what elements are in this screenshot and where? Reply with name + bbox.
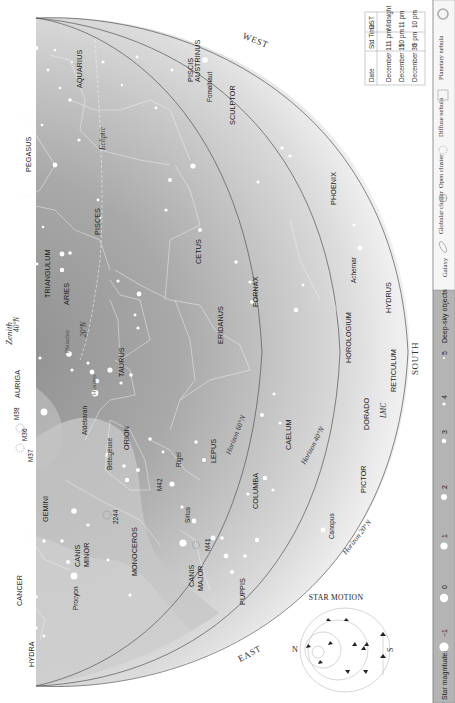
- legend-bar: Star magnitudes −1 0 1 2 3 4 5 Deep-sky …: [433, 0, 455, 703]
- label-hydrus: HYDRUS: [384, 282, 393, 313]
- label-orion: ORION: [122, 426, 131, 450]
- label-ngc2244: 2244: [112, 509, 119, 524]
- label-m42: M42: [156, 478, 163, 491]
- label-canis-minor-2: MINOR: [82, 543, 91, 567]
- label-ecliptic: Ecliptic: [98, 126, 107, 151]
- label-cetus: CETUS: [194, 239, 203, 264]
- direction-west: WEST: [241, 31, 270, 50]
- label-dorado: DORADO: [362, 398, 371, 430]
- label-taurus: TAURUS: [117, 347, 126, 377]
- label-pleiades: Pleiades: [64, 330, 70, 353]
- label-lmc: LMC: [379, 403, 388, 419]
- magnitude-dot: [443, 357, 445, 359]
- label-m36: M36: [21, 428, 28, 441]
- label-eridanus: ERIDANUS: [216, 306, 225, 344]
- magnitude-dot: [440, 594, 448, 602]
- label-triangulum: TRIANGULUM: [43, 249, 52, 298]
- label-hydra: HYDRA: [27, 641, 36, 667]
- label-zenith-20n: 20°N: [79, 321, 88, 337]
- label-pictor: PICTOR: [359, 465, 368, 493]
- globular-cluster-icon: [439, 194, 447, 202]
- table-header-dst: DST: [368, 16, 375, 29]
- magnitude-label: 2: [441, 485, 448, 489]
- label-gemini: GEMINI: [41, 496, 50, 522]
- legend-planetary-nebula-label: Planetary nebula: [437, 36, 444, 80]
- label-m38: M38: [13, 407, 20, 420]
- label-horologium: HOROLOGIUM: [344, 312, 353, 363]
- magnitude-label: 4: [441, 395, 448, 399]
- label-sculptor: SCULPTOR: [228, 85, 237, 125]
- label-columba: COLUMBA: [251, 473, 260, 509]
- label-aldebaran: Aldebaran: [81, 405, 88, 435]
- magnitude-dot: [441, 494, 447, 500]
- table-cell: 9 pm: [411, 32, 419, 46]
- label-m41: M41: [204, 538, 211, 551]
- magnitude-label: 1: [441, 534, 448, 538]
- label-procyon: Procyon: [72, 586, 80, 610]
- magnitude-label: 5: [441, 351, 448, 355]
- label-canis-major-2: MAJOR: [196, 565, 205, 591]
- label-monoceros: MONOCEROS: [130, 527, 139, 576]
- magnitude-dot: [439, 642, 448, 651]
- table-header-date: Date: [368, 68, 375, 82]
- table-cell: 11 pm: [385, 30, 393, 47]
- label-auriga: AURIGA: [13, 370, 22, 398]
- magnitude-dot: [440, 542, 447, 549]
- table-cell: December 1: [385, 47, 392, 82]
- label-austrinus: AUSTRINUS: [193, 39, 202, 82]
- table-cell: Midnight: [385, 6, 393, 30]
- table-cell: December 15: [398, 43, 405, 82]
- label-cancer: CANCER: [15, 575, 24, 606]
- label-pisces: PISCES: [93, 208, 102, 235]
- table-cell: 10 pm: [411, 10, 419, 28]
- direction-south: SOUTH: [410, 342, 420, 375]
- legend-deep-sky-label: Deep-sky objects: [441, 289, 449, 343]
- table-cell: 10 pm: [398, 29, 406, 47]
- label-reticulum: RETICULUM: [389, 349, 398, 392]
- label-betelgeuse: Betelgeuse: [106, 438, 114, 470]
- label-aries: ARIES: [62, 283, 71, 305]
- label-caelum: CAELUM: [284, 419, 293, 450]
- label-fornax: FORNAX: [251, 276, 260, 307]
- label-fomalhaut: Fomalhaut: [206, 72, 213, 102]
- time-table: Date Std Time DST December 1 11 pm Midni…: [365, 6, 425, 85]
- star-chart: AQUARIUS PISCIS AUSTRINUS SCULPTOR PEGAS…: [0, 0, 455, 703]
- star-motion-title: STAR MOTION: [309, 593, 364, 602]
- legend-galaxy-label: Galaxy: [441, 257, 448, 277]
- label-canis-major-1: CANIS: [187, 564, 196, 587]
- magnitude-label: 0: [441, 585, 448, 589]
- star-motion-n: N: [292, 645, 298, 654]
- magnitude-dot: [442, 402, 445, 405]
- label-puppis: PUPPIS: [238, 578, 247, 605]
- label-achernar: Achernar: [350, 256, 357, 283]
- table-cell: 11 pm: [398, 11, 406, 28]
- label-phoenix: PHOENIX: [329, 172, 338, 205]
- label-canopus: Canopus: [328, 513, 336, 539]
- table-cell: December 30: [411, 43, 418, 82]
- label-m37: M37: [27, 449, 34, 462]
- direction-east: EAST: [236, 643, 263, 664]
- star-motion-diagram: STAR MOTION N S: [292, 593, 395, 692]
- magnitude-label: 3: [441, 430, 448, 434]
- label-lepus: LEPUS: [209, 439, 218, 463]
- star-motion-s: S: [386, 648, 395, 652]
- label-zenith-40n: 40°N: [12, 316, 21, 332]
- legend-diffuse-nebula-label: Diffuse nebula: [437, 98, 444, 137]
- label-aquarius: AQUARIUS: [75, 50, 84, 88]
- magnitude-dot: [442, 439, 447, 444]
- label-hyades: Hyades: [91, 375, 97, 395]
- label-pegasus: PEGASUS: [24, 136, 33, 172]
- label-rigel: Rigel: [175, 452, 183, 467]
- magnitude-label: −1: [441, 629, 448, 637]
- label-canis-minor-1: CANIS: [73, 544, 82, 567]
- legend-open-cluster-label: Open cluster: [437, 154, 444, 188]
- legend-star-magnitudes-label: Star magnitudes: [441, 649, 449, 700]
- label-sirius: Sirius: [184, 507, 191, 523]
